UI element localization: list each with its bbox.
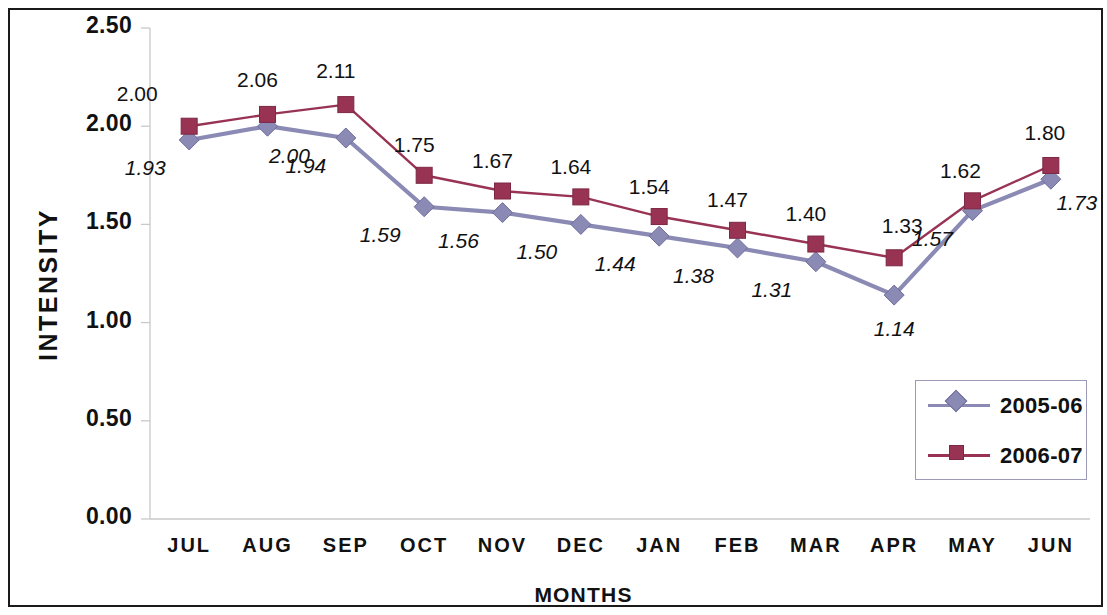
y-axis-tick-label: 0.00 — [40, 503, 132, 530]
x-axis-tick-label: MAY — [933, 534, 1011, 557]
square-marker-icon — [808, 236, 824, 252]
legend-item-2005-06[interactable]: 2005-06 — [916, 385, 1088, 425]
x-axis-tick-label: JAN — [620, 534, 698, 557]
data-point-label: 1.56 — [421, 229, 497, 253]
square-marker-icon — [886, 250, 902, 266]
square-marker-icon — [949, 445, 964, 460]
data-point-label: 1.50 — [499, 240, 575, 264]
legend-label: 2005-06 — [1000, 393, 1083, 419]
data-point-label: 2.11 — [298, 59, 374, 83]
square-marker-icon — [338, 97, 354, 113]
y-axis-tick-label: 2.50 — [40, 12, 132, 39]
data-point-label: 1.59 — [342, 223, 418, 247]
chart-legend: 2005-06 2006-07 — [915, 380, 1087, 480]
legend-item-2006-07[interactable]: 2006-07 — [916, 435, 1088, 475]
data-point-label: 1.75 — [376, 133, 452, 157]
x-axis-tick-label: JUN — [1012, 534, 1090, 557]
data-point-label: 1.93 — [107, 156, 183, 180]
diamond-marker-icon — [945, 390, 968, 413]
data-point-label: 1.44 — [577, 252, 653, 276]
data-point-label: 1.64 — [533, 155, 609, 179]
diamond-marker-icon — [728, 238, 748, 258]
data-point-label: 1.67 — [455, 149, 531, 173]
square-marker-icon — [181, 118, 197, 134]
x-axis-tick-label: JUL — [150, 534, 228, 557]
data-point-label: 1.94 — [268, 154, 344, 178]
data-point-label: 1.14 — [856, 317, 932, 341]
square-marker-icon — [416, 167, 432, 183]
y-axis-tick-label: 1.50 — [40, 208, 132, 235]
data-point-label: 2.00 — [99, 82, 175, 106]
square-marker-icon — [965, 193, 981, 209]
square-marker-icon — [730, 222, 746, 238]
diamond-marker-icon — [571, 214, 591, 234]
data-point-label: 1.31 — [734, 278, 810, 302]
x-axis-tick-label: DEC — [542, 534, 620, 557]
square-marker-icon — [1043, 157, 1059, 173]
data-point-label: 1.73 — [1039, 191, 1107, 215]
data-point-label: 1.38 — [656, 264, 732, 288]
diamond-marker-icon — [806, 252, 826, 272]
x-axis-tick-label: OCT — [385, 534, 463, 557]
square-marker-icon — [651, 209, 667, 225]
data-point-label: 1.40 — [768, 202, 844, 226]
diamond-marker-icon — [649, 226, 669, 246]
x-axis-title: MONTHS — [0, 583, 1107, 607]
x-axis-tick-label: MAR — [777, 534, 855, 557]
data-point-label: 1.80 — [1007, 121, 1083, 145]
x-axis-tick-label: NOV — [463, 534, 541, 557]
x-axis-tick-label: AUG — [228, 534, 306, 557]
data-point-label: 2.06 — [220, 68, 296, 92]
data-point-label: 1.47 — [690, 188, 766, 212]
data-point-label: 1.33 — [864, 214, 940, 238]
legend-label: 2006-07 — [1000, 443, 1083, 469]
y-axis-tick-label: 1.00 — [40, 307, 132, 334]
square-marker-icon — [260, 106, 276, 122]
data-point-label: 1.62 — [923, 159, 999, 183]
square-marker-icon — [495, 183, 511, 199]
square-marker-icon — [573, 189, 589, 205]
x-axis-tick-label: APR — [855, 534, 933, 557]
x-axis-tick-label: FEB — [698, 534, 776, 557]
x-axis-tick-label: SEP — [307, 534, 385, 557]
data-point-label: 1.54 — [611, 175, 687, 199]
diamond-marker-icon — [493, 203, 513, 223]
y-axis-tick-label: 0.50 — [40, 405, 132, 432]
y-axis-tick-label: 2.00 — [40, 110, 132, 137]
